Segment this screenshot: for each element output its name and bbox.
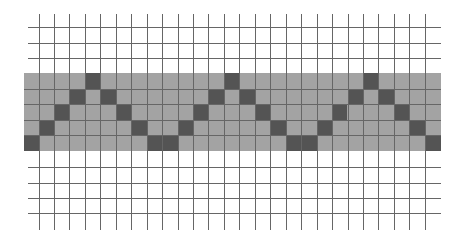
dark-cell xyxy=(286,135,301,151)
grid-horizontal-line xyxy=(24,120,441,121)
grid-horizontal-line xyxy=(28,198,441,199)
dark-cell xyxy=(162,135,177,151)
grid-diagram xyxy=(0,0,462,241)
dark-cell xyxy=(394,104,409,120)
dark-cell xyxy=(85,73,100,89)
dark-cell xyxy=(178,120,193,136)
dark-cell xyxy=(208,89,223,105)
dark-cell xyxy=(54,104,69,120)
dark-cell xyxy=(332,104,347,120)
dark-cell xyxy=(69,89,84,105)
dark-cell xyxy=(39,120,54,136)
grid-horizontal-line xyxy=(24,135,441,136)
dark-cell xyxy=(131,120,146,136)
grid-horizontal-line xyxy=(24,89,441,90)
dark-cell xyxy=(147,135,162,151)
dark-cell xyxy=(193,104,208,120)
grid-horizontal-line xyxy=(28,58,441,59)
dark-cell xyxy=(317,120,332,136)
dark-cell xyxy=(116,104,131,120)
dark-cell xyxy=(409,120,424,136)
grid-horizontal-line xyxy=(28,213,441,214)
grid-horizontal-line xyxy=(28,167,441,168)
dark-cell xyxy=(24,135,39,151)
dark-cell xyxy=(425,135,441,151)
grid-horizontal-line xyxy=(24,104,441,105)
dark-cell xyxy=(378,89,393,105)
dark-cell xyxy=(100,89,115,105)
dark-cell xyxy=(363,73,378,89)
grid-horizontal-line xyxy=(28,27,441,28)
dark-cell xyxy=(301,135,316,151)
dark-cell xyxy=(224,73,239,89)
dark-cell xyxy=(348,89,363,105)
grid-horizontal-line xyxy=(28,183,441,184)
dark-cell xyxy=(270,120,285,136)
grid-horizontal-line xyxy=(28,43,441,44)
dark-cell xyxy=(239,89,254,105)
dark-cell xyxy=(255,104,270,120)
